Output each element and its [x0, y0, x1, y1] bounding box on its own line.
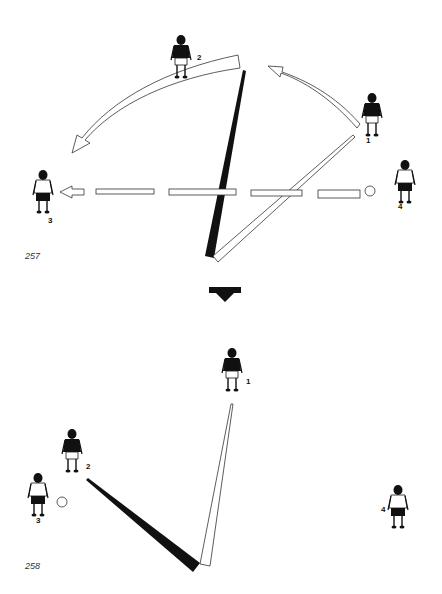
down-arrow-icon [209, 287, 241, 302]
player-label-4: 4 [381, 505, 386, 514]
soccer-drill-diagram: 2 1 3 4 257 1 2 3 4 258 [0, 0, 442, 594]
player-label-3: 3 [48, 216, 53, 225]
player-4 [388, 485, 408, 529]
player-label-2: 2 [86, 462, 91, 471]
player-2 [62, 429, 82, 473]
player-1 [222, 348, 242, 392]
player-label-2: 2 [197, 53, 202, 62]
light-wedge [213, 135, 355, 262]
player-label-4: 4 [398, 202, 403, 211]
player-label-1: 1 [246, 377, 251, 386]
player-label-1: 1 [366, 136, 371, 145]
curved-run-arrow-2-to-3 [72, 55, 240, 153]
figure-257: 2 1 3 4 257 [24, 35, 415, 262]
dark-wedge [205, 70, 246, 258]
player-3 [28, 473, 48, 517]
player-1 [362, 93, 382, 137]
player-label-3: 3 [36, 516, 41, 525]
player-3 [33, 170, 53, 214]
player-4 [395, 160, 415, 204]
ball [57, 497, 67, 507]
figure-number-258: 258 [24, 561, 40, 571]
figure-258: 1 2 3 4 258 [24, 348, 408, 572]
dark-wedge [86, 478, 200, 572]
curved-run-arrow-1-to-2 [268, 66, 360, 128]
ball [365, 186, 375, 196]
figure-number-257: 257 [24, 251, 41, 261]
dashed-pass-arrow [60, 186, 360, 198]
light-wedge [200, 404, 233, 566]
